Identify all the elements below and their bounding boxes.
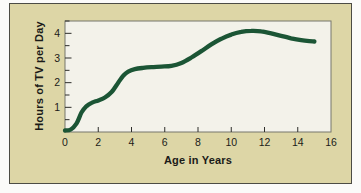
y-tick-label: 4 bbox=[54, 27, 60, 39]
y-tick-label: 3 bbox=[54, 52, 60, 64]
x-tick-label: 0 bbox=[62, 136, 68, 148]
x-tick-label: 6 bbox=[162, 136, 168, 148]
x-tick-label: 16 bbox=[325, 136, 337, 148]
y-tick-label: 2 bbox=[54, 76, 60, 88]
x-axis-title: Age in Years bbox=[65, 154, 331, 166]
x-tick-label: 10 bbox=[225, 136, 237, 148]
x-tick-label: 8 bbox=[195, 136, 201, 148]
y-tick-label: 1 bbox=[54, 101, 60, 113]
x-tick-label: 2 bbox=[95, 136, 101, 148]
x-tick-label: 12 bbox=[259, 136, 271, 148]
x-tick-label: 4 bbox=[129, 136, 135, 148]
x-tick-label: 14 bbox=[292, 136, 304, 148]
y-axis-title: Hours of TV per Day bbox=[33, 21, 45, 131]
page: { "figure": { "page_bg": "#fbfbf9", "pan… bbox=[0, 0, 361, 193]
chart-panel: 02468101214161234 Hours of TV per Day Ag… bbox=[9, 3, 352, 184]
